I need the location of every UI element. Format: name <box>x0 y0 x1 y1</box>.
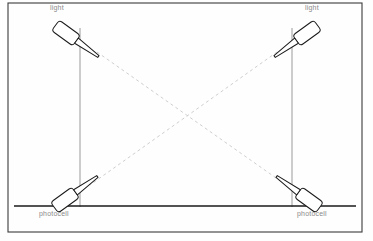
light-top-left <box>52 20 103 62</box>
beam-top-right-to-bottom-left <box>90 52 277 185</box>
diagram-svg <box>0 0 373 241</box>
diagram-canvas: light light photocell photocell <box>0 0 373 241</box>
label-light-right: light <box>305 4 319 11</box>
lamp-arm <box>75 38 101 59</box>
photocell-arm <box>275 174 301 195</box>
photocell-arm <box>74 174 100 195</box>
beam-top-left-to-bottom-right <box>97 52 286 185</box>
label-photocell-left: photocell <box>39 210 69 217</box>
lamp-arm <box>273 38 299 59</box>
light-top-right <box>271 20 322 62</box>
label-light-left: light <box>50 4 64 11</box>
label-photocell-right: photocell <box>297 210 327 217</box>
